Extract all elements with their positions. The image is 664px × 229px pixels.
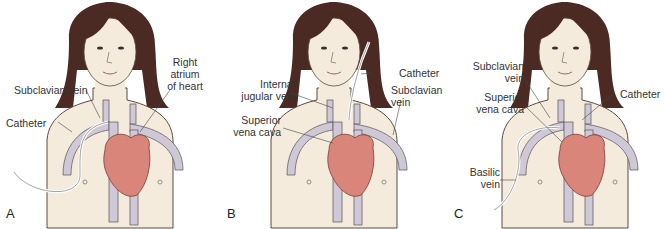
- panel-letter-c: C: [454, 206, 463, 221]
- label-subclavian-vein: Subclavian vein: [14, 84, 88, 96]
- panel-c: Subclavian vein Superior vena cava Cathe…: [442, 0, 663, 229]
- label-right-atrium: Right atrium of heart: [165, 56, 205, 92]
- panel-a: Subclavian vein Catheter Right atrium of…: [0, 0, 221, 229]
- label-basilic-vein: Basilic vein: [452, 166, 500, 190]
- label-catheter: Catheter: [6, 117, 46, 129]
- label-catheter: Catheter: [399, 67, 439, 79]
- label-internal-jugular-vein: Internal jugular vein: [235, 78, 295, 102]
- label-superior-vena-cava: Superior vena cava: [221, 114, 281, 138]
- label-subclavian-vein: Subclavian vein: [391, 84, 442, 108]
- panel-b: Internal jugular vein Catheter Subclavia…: [221, 0, 442, 229]
- figure-a-illustration: [0, 0, 221, 229]
- panel-letter-a: A: [6, 206, 15, 221]
- label-superior-vena-cava: Superior vena cava: [462, 91, 524, 115]
- label-subclavian-vein: Subclavian vein: [466, 60, 524, 84]
- panel-letter-b: B: [227, 206, 236, 221]
- label-catheter: Catheter: [620, 88, 660, 100]
